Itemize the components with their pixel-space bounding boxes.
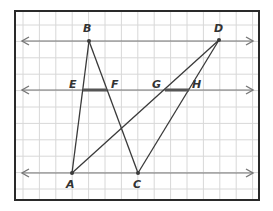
point-A xyxy=(70,171,74,175)
label-A: A xyxy=(65,178,75,191)
label-G: G xyxy=(152,78,161,91)
point-D xyxy=(217,38,221,42)
label-E: E xyxy=(69,78,77,91)
label-D: D xyxy=(214,22,223,35)
geometry-diagram: ABCDEFGH xyxy=(0,0,273,211)
label-F: F xyxy=(111,78,119,91)
label-B: B xyxy=(83,22,91,35)
point-B xyxy=(87,39,91,43)
label-H: H xyxy=(192,78,201,91)
point-C xyxy=(136,171,140,175)
label-C: C xyxy=(133,178,141,191)
